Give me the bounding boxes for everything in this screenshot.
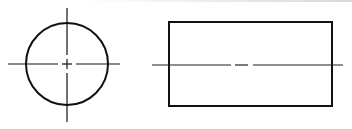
orthographic-drawing (0, 0, 352, 129)
side-view (152, 22, 343, 106)
cylinder-side-rectangle (169, 22, 332, 106)
end-view (8, 8, 120, 122)
